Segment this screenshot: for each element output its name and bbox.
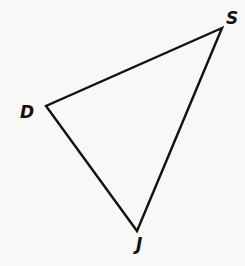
triangle-diagram: S D J xyxy=(0,0,245,266)
triangle-dsj xyxy=(46,28,222,231)
vertex-label-j: J xyxy=(133,234,142,254)
vertex-label-d: D xyxy=(20,102,34,122)
vertex-label-s: S xyxy=(226,8,238,28)
diagram-canvas: S D J xyxy=(0,0,245,266)
